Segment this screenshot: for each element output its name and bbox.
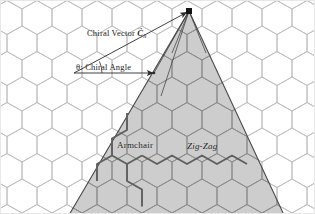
diagram-canvas	[1, 1, 315, 214]
armchair-label: Armchair	[117, 140, 153, 150]
chiral-angle-text: : Chiral Angle	[80, 62, 131, 72]
chiral-angle-label: θ: Chiral Angle	[76, 62, 131, 72]
chiral-vector-label: Chiral Vector →Ch	[87, 28, 146, 39]
apex-vertex-marker	[186, 8, 192, 14]
chiral-vector-symbol-group: →Ch	[137, 28, 146, 38]
chiral-vector-subscript: h	[143, 33, 146, 39]
zigzag-label: Zig-Zag	[187, 141, 217, 151]
graphene-chirality-figure: Chiral Vector →Ch θ: Chiral Angle Armcha…	[0, 0, 315, 214]
vector-overarrow-icon: →	[137, 25, 144, 32]
chiral-angle-endpoint-marker	[153, 72, 156, 75]
chiral-vector-text: Chiral Vector	[87, 28, 135, 38]
